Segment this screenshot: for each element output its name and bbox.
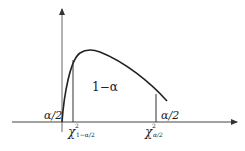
svg-text:1−α/2: 1−α/2 bbox=[76, 131, 95, 138]
left-critical-value-label: χ 2 1−α/2 bbox=[67, 122, 95, 139]
right-tail-label: α/2 bbox=[161, 109, 179, 122]
left-tail-label: α/2 bbox=[44, 109, 62, 122]
right-critical-value-label: χ 2 α/2 bbox=[144, 122, 163, 139]
svg-text:α/2: α/2 bbox=[153, 131, 163, 138]
chi-square-diagram: 1−α α/2 α/2 χ 2 1−α/2 χ 2 α/2 bbox=[0, 0, 245, 151]
svg-text:2: 2 bbox=[75, 122, 79, 129]
svg-text:2: 2 bbox=[152, 122, 156, 129]
center-area-label: 1−α bbox=[92, 80, 118, 94]
